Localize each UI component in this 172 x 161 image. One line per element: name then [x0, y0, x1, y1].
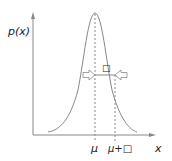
- x-axis-label: x: [154, 142, 162, 155]
- right-arrow-icon: [115, 70, 127, 80]
- gaussian-diagram: p(x) x μ μ+□ □: [0, 0, 172, 161]
- y-axis-label: p(x): [7, 25, 30, 38]
- x-axis-arrowhead-icon: [149, 133, 156, 137]
- mu-plus-sigma-label: μ+□: [107, 143, 132, 154]
- sigma-label: □: [102, 63, 111, 73]
- y-axis-arrowhead-icon: [31, 12, 35, 19]
- left-arrow-icon: [83, 70, 95, 80]
- mu-label: μ: [90, 142, 98, 155]
